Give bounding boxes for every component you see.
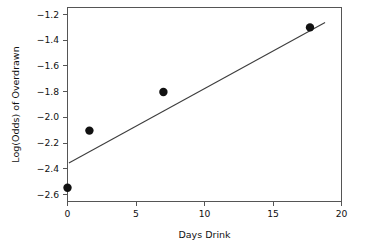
x-axis-title: Days Drink: [178, 229, 231, 240]
x-axis-ticks: [68, 202, 342, 207]
y-axis-title: Log(Odds) of Overdrawn: [10, 46, 21, 162]
y-tick-label: −1.6: [37, 60, 59, 71]
y-tick-label: −2.4: [37, 163, 59, 174]
y-axis-ticks: [63, 15, 68, 195]
x-tick-label: 15: [267, 208, 279, 219]
x-tick-label: 20: [336, 208, 348, 219]
data-point: [85, 126, 93, 134]
data-point: [63, 184, 71, 192]
plot-canvas: −1.2 −1.4 −1.6 −1.8 −2.0 −2.2 −2.4 −2.6 …: [0, 0, 381, 251]
fitted-regression-line: [69, 22, 325, 163]
y-tick-label: −2.2: [37, 137, 59, 148]
y-tick-label: −2.6: [37, 189, 59, 200]
data-point: [306, 23, 314, 31]
y-tick-label: −1.2: [37, 9, 59, 20]
plot-frame: [68, 8, 342, 202]
x-tick-label: 0: [65, 208, 71, 219]
y-tick-label: −1.8: [37, 86, 59, 97]
y-tick-label: −2.0: [37, 111, 59, 122]
data-point: [159, 88, 167, 96]
x-tick-label: 5: [133, 208, 139, 219]
y-axis-tick-labels: −1.2 −1.4 −1.6 −1.8 −2.0 −2.2 −2.4 −2.6: [37, 9, 59, 200]
x-axis-tick-labels: 0 5 10 15 20: [65, 208, 348, 219]
y-tick-label: −1.4: [37, 34, 59, 45]
x-tick-label: 10: [199, 208, 211, 219]
scatter-plot-figure: −1.2 −1.4 −1.6 −1.8 −2.0 −2.2 −2.4 −2.6 …: [0, 0, 381, 251]
